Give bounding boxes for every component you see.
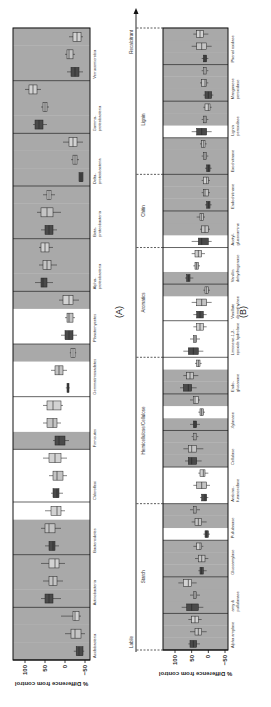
category-label-line: Gemmatimonadetes bbox=[92, 359, 97, 395]
category-label-line: proteobacteria bbox=[97, 158, 102, 184]
category-background bbox=[13, 80, 90, 98]
category-background bbox=[163, 162, 228, 174]
category-group bbox=[163, 64, 228, 101]
box-iqr bbox=[188, 445, 196, 452]
category-label: Vanillindehydrogenase bbox=[230, 254, 240, 282]
category-background bbox=[13, 115, 90, 133]
category-label: Chloroflexi bbox=[92, 481, 97, 500]
category-background bbox=[13, 431, 90, 449]
box-iqr bbox=[202, 494, 207, 501]
category-group bbox=[13, 186, 90, 239]
category-label-line: Actinobacteria bbox=[92, 579, 97, 605]
labile-label: Labile bbox=[129, 635, 134, 648]
category-label-line: epoxide hydrolase bbox=[235, 322, 240, 355]
category-background bbox=[163, 223, 228, 235]
category-label-line: Alpha amylase bbox=[230, 621, 235, 648]
box-iqr bbox=[67, 50, 73, 59]
category-label-line: glucanase bbox=[235, 373, 240, 392]
category-background bbox=[163, 113, 228, 125]
category-group bbox=[163, 503, 228, 540]
category-label: Bacteroidetes bbox=[92, 528, 97, 552]
box-iqr bbox=[45, 524, 55, 533]
category-background bbox=[163, 137, 228, 149]
category-label: Gamma-proteobacteria bbox=[92, 105, 102, 131]
category-label: amy &pullulanase bbox=[230, 590, 240, 611]
category-background bbox=[163, 150, 228, 162]
category-label: Arabino-furanosidase bbox=[230, 478, 240, 502]
category-background bbox=[163, 284, 228, 296]
gradient-arrowhead-icon bbox=[134, 8, 139, 14]
box-iqr bbox=[47, 401, 61, 410]
category-group bbox=[163, 467, 228, 504]
category-label-line: Endochitinase bbox=[230, 183, 235, 209]
category-group bbox=[163, 174, 228, 211]
category-label-line: proteobacteria bbox=[97, 210, 102, 236]
group-label: Chitin bbox=[141, 205, 146, 217]
category-background bbox=[163, 491, 228, 503]
box-iqr bbox=[63, 296, 73, 305]
group-label: Lignin bbox=[141, 113, 146, 126]
category-group bbox=[13, 449, 90, 502]
category-label: Firmicutes bbox=[92, 429, 97, 447]
category-label: Limonene-1,2-epoxide hydrolase bbox=[230, 322, 240, 355]
category-label: Gemmatimonadetes bbox=[92, 359, 97, 395]
category-group bbox=[163, 613, 228, 650]
category-label-line: Exochitinase bbox=[230, 149, 235, 172]
y-tick-label: 100 bbox=[22, 664, 28, 675]
category-group bbox=[13, 238, 90, 291]
category-label-line: Phenol oxidase bbox=[230, 34, 235, 62]
category-label: Acetyl-glucosamine bbox=[230, 222, 240, 245]
category-label-line: Xylanase bbox=[230, 411, 235, 428]
box-iqr bbox=[193, 397, 198, 404]
category-group bbox=[13, 344, 90, 397]
box-iqr bbox=[47, 419, 57, 428]
y-tick-label: −50 bbox=[82, 664, 88, 675]
category-group bbox=[163, 284, 228, 321]
category-background bbox=[13, 379, 90, 397]
category-group bbox=[163, 247, 228, 284]
box-iqr bbox=[198, 238, 208, 245]
box-iqr bbox=[203, 177, 208, 184]
category-group bbox=[163, 540, 228, 577]
panel-a: AcidobacteriaActinobacteriaBacteroidetes… bbox=[13, 28, 102, 687]
category-group bbox=[163, 137, 228, 174]
category-label: Alpha amylase bbox=[230, 621, 235, 648]
box-iqr bbox=[55, 436, 65, 445]
category-label: Endo-glucanase bbox=[230, 373, 240, 392]
category-group bbox=[163, 430, 228, 467]
category-label-line: proteobacteria bbox=[97, 263, 102, 289]
panel-b-label: (B) bbox=[238, 306, 248, 318]
box-iqr bbox=[67, 313, 73, 322]
y-tick-label: 50 bbox=[189, 654, 195, 661]
category-label: Glucoamylase bbox=[230, 549, 235, 575]
y-tick-label: 0 bbox=[205, 654, 211, 658]
category-label: Actinobacteria bbox=[92, 579, 97, 605]
category-group bbox=[163, 577, 228, 614]
category-background bbox=[163, 198, 228, 210]
category-background bbox=[163, 528, 228, 540]
category-group bbox=[13, 133, 90, 186]
category-label-line: Bacteroidetes bbox=[92, 528, 97, 552]
y-tick-label: −50 bbox=[222, 654, 228, 665]
category-label: Phenol oxidase bbox=[230, 34, 235, 62]
category-label-line: peroxidase bbox=[235, 115, 240, 135]
category-background bbox=[163, 211, 228, 223]
category-label: Planctomycetes bbox=[92, 314, 97, 342]
y-axis-title: % Difference from control bbox=[15, 681, 89, 687]
category-background bbox=[163, 174, 228, 186]
category-label: Alpha-proteobacteria bbox=[92, 263, 102, 289]
y-tick-label: 50 bbox=[42, 664, 48, 671]
box-iqr bbox=[73, 612, 79, 621]
category-background bbox=[163, 272, 228, 284]
box-iqr bbox=[49, 541, 55, 550]
category-label-line: dehydrogenase bbox=[235, 254, 240, 282]
box-iqr bbox=[187, 604, 199, 611]
category-group bbox=[163, 101, 228, 138]
y-tick-label: 0 bbox=[62, 664, 68, 668]
category-label: Xylanase bbox=[230, 411, 235, 428]
group-label: Aromatics bbox=[141, 292, 146, 313]
box-iqr bbox=[188, 458, 196, 465]
category-group bbox=[13, 291, 90, 344]
box-iqr bbox=[41, 278, 47, 287]
category-label-line: Acidobacteria bbox=[92, 633, 97, 658]
